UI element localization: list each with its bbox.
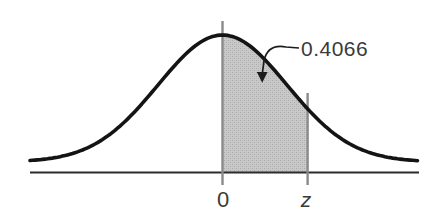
mean-tick-label: 0 <box>217 187 229 212</box>
z-tick-label: z <box>300 188 312 211</box>
normal-distribution-chart: 0.4066 0 z <box>0 0 431 213</box>
annotation-value-label: 0.4066 <box>301 37 368 60</box>
normal-curve-figure: 0.4066 0 z <box>0 0 431 213</box>
